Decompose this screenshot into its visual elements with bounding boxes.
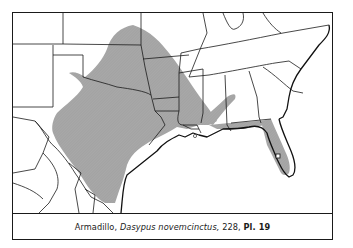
species-range [52, 25, 290, 203]
caption-scientific-name: Dasypus novemcinctus, [120, 222, 220, 232]
range-map [13, 13, 332, 213]
florida-range [261, 119, 290, 175]
figure-caption: Armadillo, Dasypus novemcinctus, 228, Pl… [13, 213, 332, 239]
caption-page-number: 228, [222, 222, 241, 232]
caption-common-name: Armadillo, [75, 222, 117, 232]
caption-plate-reference: Pl. 19 [244, 222, 271, 232]
louisiana-locality-dot [193, 134, 196, 137]
florida-locality-square [276, 154, 280, 158]
map-figure: Armadillo, Dasypus novemcinctus, 228, Pl… [12, 12, 333, 240]
